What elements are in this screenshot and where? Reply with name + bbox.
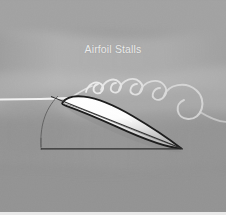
airfoil-stall-figure: Airfoil Stalls bbox=[0, 0, 226, 215]
airfoil-stall-illustration bbox=[0, 0, 226, 215]
